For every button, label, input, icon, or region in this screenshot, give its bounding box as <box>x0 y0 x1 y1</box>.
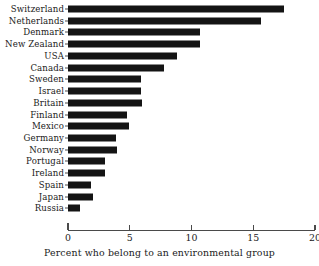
bar <box>68 134 116 141</box>
category-label: USA <box>44 51 64 60</box>
bar <box>68 52 177 59</box>
x-axis-tick-label: 0 <box>65 232 71 243</box>
category-label: New Zealand <box>5 40 64 49</box>
category-label: Mexico <box>32 122 64 131</box>
bar-row: Canada <box>0 62 319 74</box>
x-axis-tick-label: 5 <box>127 232 133 243</box>
x-axis-tick-label: 20 <box>309 232 319 243</box>
category-label: Britain <box>33 98 64 107</box>
bar-row: Israel <box>0 85 319 97</box>
x-axis-tick <box>67 225 68 230</box>
bar-chart: SwitzerlandNetherlandsDenmarkNew Zealand… <box>0 0 319 266</box>
x-axis-tick-label: 10 <box>186 232 198 243</box>
bar-row: Switzerland <box>0 3 319 15</box>
bar <box>68 111 127 118</box>
bar-row: Finland <box>0 109 319 121</box>
bar <box>68 205 80 212</box>
bar-row: Portugal <box>0 156 319 168</box>
category-label: Portugal <box>26 157 64 166</box>
category-label: Germany <box>24 133 64 142</box>
bar-row: Germany <box>0 132 319 144</box>
bar <box>68 88 141 95</box>
bar-row: USA <box>0 50 319 62</box>
bar-row: New Zealand <box>0 38 319 50</box>
bar <box>68 99 142 106</box>
category-label: Norway <box>29 145 64 154</box>
bar <box>68 41 200 48</box>
bar <box>68 76 141 83</box>
category-label: Ireland <box>32 169 64 178</box>
x-axis-line <box>68 230 315 231</box>
category-label: Finland <box>30 110 64 119</box>
bar <box>68 123 129 130</box>
bar-row: Britain <box>0 97 319 109</box>
bar <box>68 181 91 188</box>
category-label: Sweden <box>29 75 64 84</box>
bar-row: Spain <box>0 179 319 191</box>
bar-row: Japan <box>0 191 319 203</box>
bar-row: Ireland <box>0 167 319 179</box>
bar <box>68 6 284 13</box>
bar-row: Denmark <box>0 27 319 39</box>
x-axis-title: Percent who belong to an environmental g… <box>0 247 319 258</box>
category-label: Netherlands <box>9 16 64 25</box>
x-axis-tick-label: 15 <box>247 232 259 243</box>
category-label: Russia <box>35 204 64 213</box>
x-axis-tick <box>129 225 130 230</box>
plot-area: SwitzerlandNetherlandsDenmarkNew Zealand… <box>0 0 319 266</box>
x-axis-tick <box>191 225 192 230</box>
category-label: Israel <box>39 87 64 96</box>
category-label: Denmark <box>23 28 64 37</box>
category-label: Japan <box>39 192 64 201</box>
bar-row: Russia <box>0 202 319 214</box>
bar-row: Netherlands <box>0 15 319 27</box>
bar <box>68 29 200 36</box>
bar-row: Norway <box>0 144 319 156</box>
bar <box>68 146 117 153</box>
bar <box>68 158 105 165</box>
bar <box>68 170 105 177</box>
category-label: Switzerland <box>11 5 64 14</box>
bar-row: Mexico <box>0 120 319 132</box>
category-label: Canada <box>30 63 64 72</box>
x-axis-tick <box>314 225 315 230</box>
bar <box>68 17 261 24</box>
bar-row: Sweden <box>0 74 319 86</box>
x-axis-tick <box>253 225 254 230</box>
bar <box>68 193 93 200</box>
bar <box>68 64 164 71</box>
category-label: Spain <box>39 180 64 189</box>
